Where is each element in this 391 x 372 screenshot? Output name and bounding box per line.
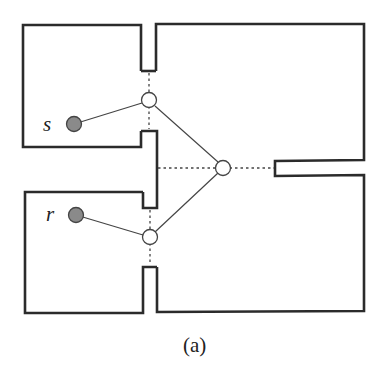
- edge-r-to-bottom-doorway: [76, 215, 143, 235]
- figure-caption: (a): [183, 333, 206, 357]
- top-left-room-walls: [23, 25, 141, 147]
- bottom-doorway-node: [143, 230, 158, 245]
- edge-top-doorway-to-center: [155, 106, 218, 162]
- bottom-left-room-walls: [25, 192, 157, 313]
- source-node-s: [67, 117, 82, 132]
- edge-s-to-top-doorway: [74, 103, 142, 124]
- top-doorway-node: [142, 93, 157, 108]
- floor-plan-diagram: s r (a): [0, 0, 391, 372]
- center-junction-node: [216, 161, 231, 176]
- center-wall-bar: [141, 131, 157, 208]
- source-label: s: [43, 112, 51, 136]
- receiver-label: r: [46, 202, 55, 226]
- receiver-node-r: [69, 208, 84, 223]
- edge-bottom-doorway-to-center: [155, 173, 218, 232]
